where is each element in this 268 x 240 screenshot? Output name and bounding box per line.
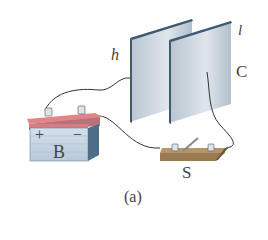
label-switch: S <box>182 164 191 181</box>
label-plate-l: l <box>238 23 242 38</box>
switch <box>160 138 228 161</box>
label-minus: − <box>73 127 82 143</box>
wire-battery-to-plate-left <box>45 78 130 110</box>
label-plate-h: h <box>111 47 119 63</box>
label-capacitor: C <box>236 63 247 80</box>
label-battery: B <box>53 143 65 161</box>
terminal-negative <box>78 106 85 114</box>
figure-caption: (a) <box>124 189 142 205</box>
label-plus: + <box>35 127 44 143</box>
terminal-positive <box>45 108 52 116</box>
